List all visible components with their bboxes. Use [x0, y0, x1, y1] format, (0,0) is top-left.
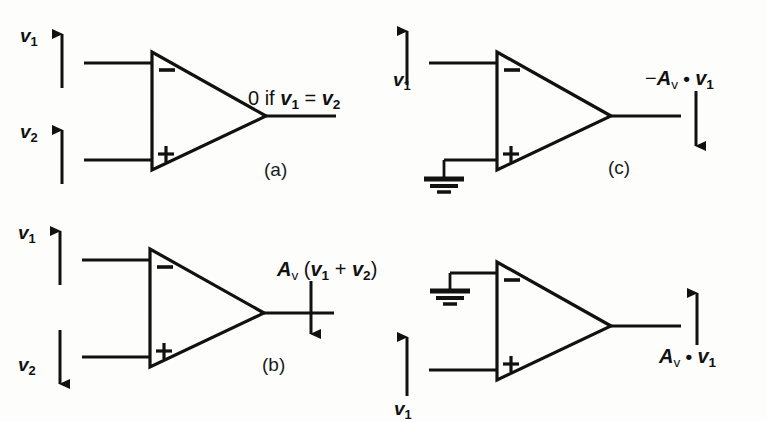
panel-a-output-expression: 0 if v1 = v2 [248, 88, 340, 111]
panel-a-tag: (a) [264, 160, 287, 179]
panel-c-output-expression: −Av • v1 [645, 68, 714, 91]
panel-c-input-label-v1: v1 [393, 70, 411, 93]
schematic-drawing [0, 0, 767, 422]
panel-b-input-label-v2: v2 [18, 355, 36, 378]
panel-b-output-expression: Av (v1 + v2) [277, 259, 377, 282]
panel-b-tag: (b) [262, 355, 285, 374]
panel-d-schematic [407, 262, 697, 396]
panel-c-schematic [407, 31, 696, 192]
panel-b-input-label-v1: v1 [18, 223, 36, 246]
panel-a-input-label-v2: v2 [20, 122, 38, 145]
op-amp-figure: v1 v2 0 if v1 = v2 (a) v1 v2 Av (v1 + v2… [0, 0, 767, 422]
panel-c-tag: (c) [608, 158, 630, 177]
panel-b-schematic [60, 231, 334, 384]
panel-a-input-label-v1: v1 [20, 26, 38, 49]
panel-d-output-expression: Av • v1 [659, 346, 716, 369]
panel-d-input-label-v1: v1 [394, 399, 412, 422]
